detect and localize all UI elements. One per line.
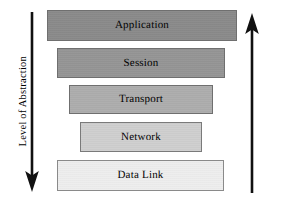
layer-bar-session[interactable]: Session (57, 48, 225, 78)
layer-bar-transport[interactable]: Transport (69, 85, 213, 114)
left-axis-label: Level of Abstraction (18, 31, 29, 171)
layer-label: Network (121, 131, 161, 142)
layer-bar-data-link[interactable]: Data Link (57, 160, 224, 191)
layer-label: Transport (119, 94, 163, 105)
layer-bar-network[interactable]: Network (80, 122, 202, 152)
layer-stack-diagram: Level of Abstraction Granularity / Adapt… (0, 0, 285, 205)
layer-bar-application[interactable]: Application (47, 10, 237, 41)
layer-label: Session (123, 57, 158, 68)
layer-label: Data Link (117, 170, 163, 181)
layer-label: Application (115, 20, 169, 31)
